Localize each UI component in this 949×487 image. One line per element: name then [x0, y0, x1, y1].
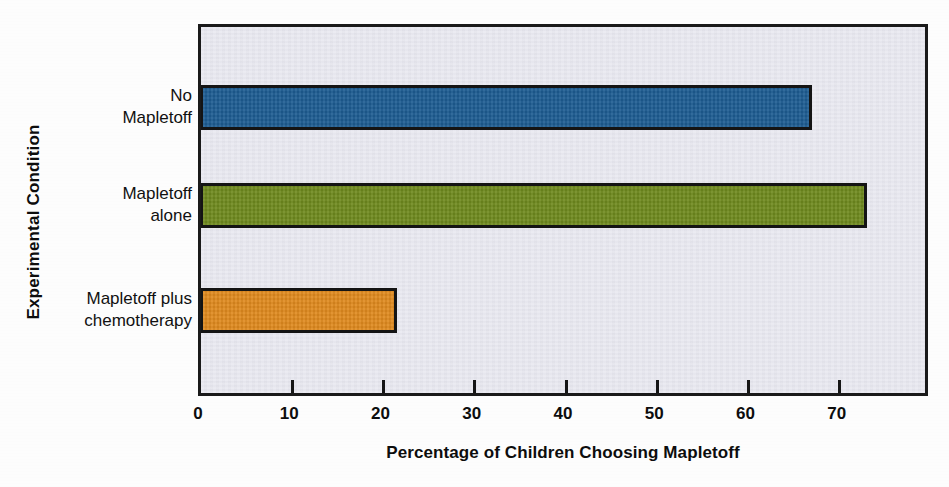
plot-area — [198, 24, 928, 396]
bar-mapletoff-alone — [201, 183, 867, 228]
x-tick-40 — [565, 380, 568, 393]
bar-texture — [203, 88, 809, 127]
bar-no-mapletoff — [201, 85, 812, 130]
x-tick-label-70: 70 — [807, 404, 867, 424]
x-tick-label-10: 10 — [259, 404, 319, 424]
bar-mapletoff-plus-chemotherapy — [201, 288, 397, 333]
plot-inner-background — [201, 27, 925, 393]
category-label-no-mapletoff: No Mapletoff — [0, 85, 192, 129]
bar-chart-figure: Experimental Condition No Mapletoff Mapl… — [0, 0, 949, 487]
x-tick-label-30: 30 — [442, 404, 502, 424]
x-tick-70 — [838, 380, 841, 393]
bar-texture — [203, 186, 864, 225]
x-tick-label-60: 60 — [716, 404, 776, 424]
bar-texture — [203, 291, 394, 330]
x-tick-label-20: 20 — [351, 404, 411, 424]
x-tick-label-0: 0 — [168, 404, 228, 424]
x-tick-label-40: 40 — [533, 404, 593, 424]
category-label-mapletoff-plus-chemotherapy: Mapletoff plus chemotherapy — [0, 288, 192, 332]
x-tick-10 — [291, 380, 294, 393]
x-tick-60 — [747, 380, 750, 393]
x-tick-30 — [473, 380, 476, 393]
x-tick-50 — [656, 380, 659, 393]
x-tick-20 — [382, 380, 385, 393]
category-label-mapletoff-alone: Mapletoff alone — [0, 183, 192, 227]
x-tick-label-50: 50 — [624, 404, 684, 424]
x-axis-title: Percentage of Children Choosing Mapletof… — [198, 443, 928, 463]
